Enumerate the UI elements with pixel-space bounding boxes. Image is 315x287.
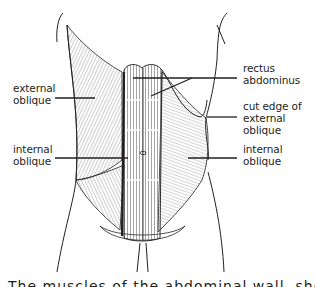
internal-oblique-right-muscle [158,72,208,232]
label-cut-edge-external-oblique: cut edge of external oblique [243,100,302,136]
external-oblique-muscle [67,25,122,180]
label-rectus-abdominus: rectus abdominus [243,62,300,86]
label-external-oblique: external oblique [13,82,55,106]
label-internal-oblique-right: internal oblique [243,143,283,167]
label-internal-oblique-left: internal oblique [13,143,53,167]
torso-outline-right [206,13,227,160]
torso-outline-left [57,13,63,42]
figure-caption: The muscles of the abdominal wall, showi… [8,278,315,287]
